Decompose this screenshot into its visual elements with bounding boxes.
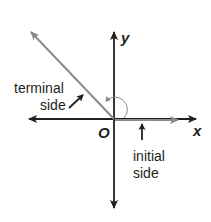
angle-diagram: y x O terminal side initial side — [0, 0, 211, 222]
y-axis-label: y — [120, 29, 130, 46]
initial-side-label-line1: initial — [133, 148, 165, 164]
terminal-side-label-line1: terminal — [14, 80, 64, 96]
terminal-pointer-arrow-icon — [69, 95, 83, 108]
x-axis-label: x — [192, 122, 202, 139]
origin-label: O — [98, 124, 110, 141]
terminal-side-label-line2: side — [40, 97, 66, 113]
initial-side-label-line2: side — [133, 165, 159, 181]
